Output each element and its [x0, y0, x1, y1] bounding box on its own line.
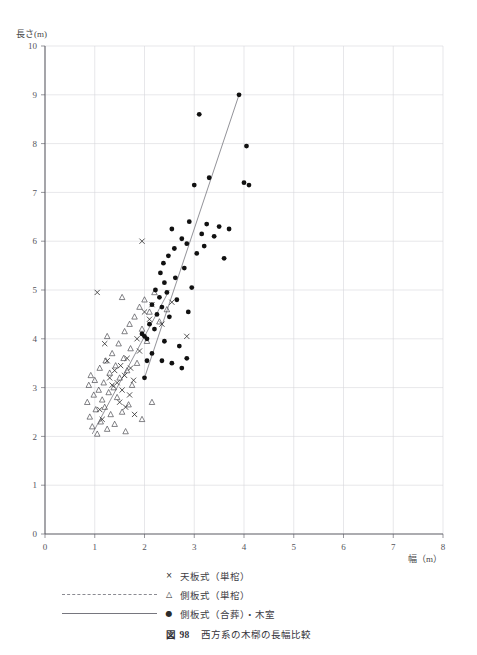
svg-text:6: 6: [33, 236, 38, 246]
svg-text:8: 8: [441, 542, 446, 552]
legend-label: 天板式（単棺）: [180, 569, 250, 583]
legend-marker-icon: ×: [163, 571, 175, 580]
x-axis-tick-labels: 012345678: [43, 542, 446, 552]
plot-area: 012345678910 012345678: [0, 0, 477, 655]
y-axis-tick-labels: 012345678910: [28, 41, 38, 539]
svg-text:4: 4: [33, 334, 38, 344]
svg-text:0: 0: [33, 529, 38, 539]
svg-text:5: 5: [33, 285, 38, 295]
svg-text:1: 1: [93, 542, 98, 552]
axis-ticks: [41, 46, 443, 538]
legend-key: ×: [0, 571, 180, 580]
legend-row: △側板式（単棺）: [0, 585, 477, 604]
figure-caption: 図 98西方系の木槨の長幅比較: [0, 627, 477, 641]
caption-number: 図 98: [166, 630, 189, 640]
legend-row: ●側板式（合葬）・木室: [0, 604, 477, 623]
legend-line-solid: [62, 613, 157, 614]
legend-key: △: [0, 590, 180, 599]
legend-marker-icon: ●: [163, 609, 175, 618]
svg-text:9: 9: [33, 90, 38, 100]
svg-text:2: 2: [33, 432, 38, 442]
svg-text:5: 5: [292, 542, 297, 552]
legend-row: ×天板式（単棺）: [0, 566, 477, 585]
svg-text:6: 6: [341, 542, 346, 552]
legend-key: ●: [0, 609, 180, 618]
svg-text:2: 2: [142, 542, 147, 552]
caption-text: 西方系の木槨の長幅比較: [201, 630, 311, 640]
legend-line-none: [62, 575, 157, 576]
figure-98-scatter-chart: 長さ(m) 幅（m） 012345678910 012345678 ×天板式（単…: [0, 0, 477, 655]
svg-text:7: 7: [391, 542, 396, 552]
data-points: [85, 92, 252, 436]
gridlines: [45, 46, 443, 534]
svg-text:1: 1: [33, 480, 38, 490]
chart-legend: ×天板式（単棺）△側板式（単棺）●側板式（合葬）・木室: [0, 566, 477, 623]
legend-label: 側板式（合葬）・木室: [180, 607, 275, 621]
svg-text:3: 3: [192, 542, 197, 552]
svg-text:0: 0: [43, 542, 48, 552]
svg-text:4: 4: [242, 542, 247, 552]
svg-text:3: 3: [33, 383, 38, 393]
svg-text:8: 8: [33, 139, 38, 149]
legend-line-dashed: [62, 594, 157, 595]
svg-text:10: 10: [28, 41, 38, 51]
legend-marker-icon: △: [163, 590, 175, 599]
svg-text:7: 7: [33, 188, 38, 198]
legend-label: 側板式（単棺）: [180, 588, 250, 602]
